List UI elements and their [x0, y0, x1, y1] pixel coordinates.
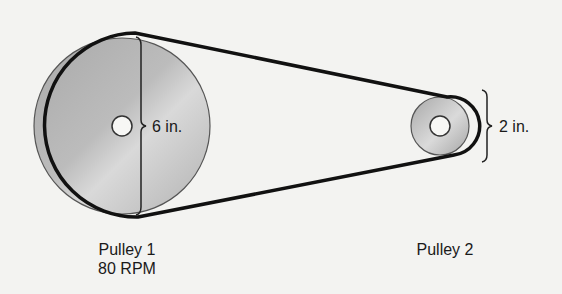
pulley-1: [34, 38, 210, 214]
pulley-1-name: Pulley 1: [82, 240, 172, 259]
pulley-1-axle-hole: [112, 116, 132, 136]
pulley-2-diameter-label: 2 in.: [499, 117, 529, 136]
pulley-1-speed: 80 RPM: [82, 259, 172, 278]
pulley-1-diameter-label: 6 in.: [152, 117, 182, 136]
pulley-1-caption: Pulley 1 80 RPM: [82, 240, 172, 278]
pulley-2: [411, 97, 469, 155]
pulley-2-name: Pulley 2: [400, 240, 490, 259]
pulley-2-axle-hole: [430, 116, 450, 136]
diameter-bracket-2in: [482, 90, 492, 162]
